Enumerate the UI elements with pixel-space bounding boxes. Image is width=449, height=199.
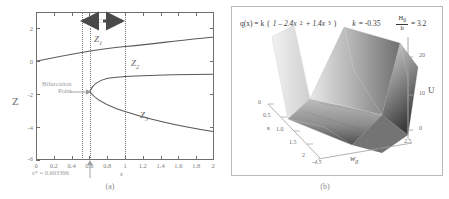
bifurcation-annotation-line1: Bifurcation [42,80,72,87]
branch-label-z2-sub: 2 [136,63,139,70]
stability-range-arrow-icon [80,15,140,29]
w0-tick-label-max: 2.5 [404,138,412,144]
u-tick-label-20: 20 [419,52,425,58]
x-tick-label: 2 [211,162,214,169]
panel-b-surface-plot: q(x) = k ( 1 – 2.4x2 + 1.4x3 ) k = -0.35… [225,0,449,199]
s-tick-label-2: 2 [302,152,305,158]
surface-plot-frame: q(x) = k ( 1 – 2.4x2 + 1.4x3 ) k = -0.35… [231,6,443,176]
x-tick-label: 0.8 [103,162,111,169]
bifurcation-annotation-line2: Point [42,87,72,94]
sstar-annotation: s* = 0.603396 [32,169,69,176]
branch-label-z2: Z2 [131,58,139,70]
x-tick-label: 0.2 [50,162,58,169]
x-tick-label: 0.4 [68,162,76,169]
s-tick-label-0: 0 [258,99,261,105]
s-tick-label-15: 1.5 [289,139,297,145]
w0-axis [316,140,426,170]
s-axis-title: s [267,124,270,132]
w0-axis-title-sub: 0 [355,159,358,165]
u-tick-label-10: 10 [419,90,425,96]
y-axis-title: Z [12,95,19,107]
y-tick-label: -6 [28,155,33,162]
w0-tick-label-mid: 0 [378,147,381,153]
s-tick-label-05: 0.5 [263,112,271,118]
bifurcation-point-annotation: Bifurcation Point [42,80,72,95]
curve-z2 [90,74,213,91]
s-tick-label-10: 1.0 [276,126,284,132]
y-tick [36,160,40,161]
curve-z3 [90,92,213,132]
x-tick-label: 1.8 [192,162,200,169]
figure-container: 0 0.2 0.4 0.6 0.8 1 1.2 1.4 1.6 1.8 2 2 … [0,0,449,199]
y-tick-label: -4 [28,124,33,131]
x-tick-label: 1.2 [139,162,147,169]
w0-axis-title: w0 [350,154,358,165]
panel-a-caption: (a) [95,182,125,191]
panel-b-caption: (b) [310,182,340,191]
x-tick-label: 0 [34,162,37,169]
y-tick-label: -2 [28,91,33,98]
x-tick-label: 1 [123,162,126,169]
branch-label-z3: Z3 [140,110,148,122]
curve-z1 [36,37,213,61]
y-tick-label: 2 [30,25,33,32]
x-axis-title: s [120,170,123,178]
sstar-pointer-icon [86,160,96,182]
y-tick-label: 0 [30,58,33,65]
w0-tick-label-min: -4.5 [312,159,322,165]
x-tick-label: 1.4 [157,162,165,169]
branch-label-z1-sub: 1 [99,39,102,46]
branch-label-z1: Z1 [94,34,102,46]
panel-a-bifurcation-diagram: 0 0.2 0.4 0.6 0.8 1 1.2 1.4 1.6 1.8 2 2 … [0,0,225,199]
bifurcation-pointer-icon [70,87,92,97]
u-axis-title: U [428,85,435,95]
branch-label-z3-sub: 3 [145,115,148,122]
x-tick-label: 1.6 [174,162,182,169]
u-tick-label-0: 0 [419,125,422,131]
